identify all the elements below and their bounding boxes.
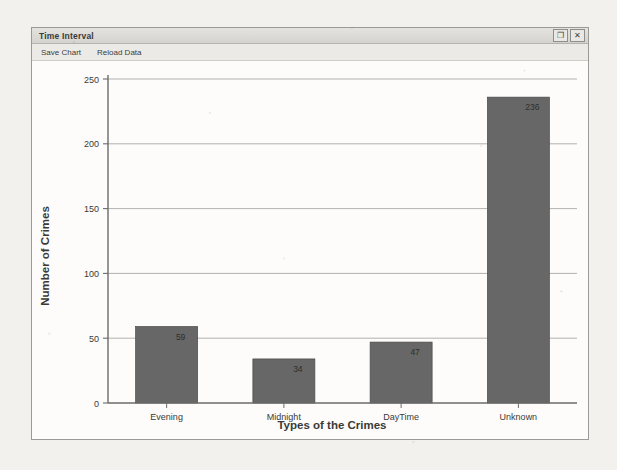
bar-chart: 050100150200250 EveningMidnightDayTimeUn… xyxy=(32,61,588,438)
menu-item-save-chart[interactable]: Save Chart xyxy=(41,48,81,57)
bar[interactable] xyxy=(253,359,315,403)
window-title: Time Interval xyxy=(39,31,551,41)
bar-value-label: 47 xyxy=(410,347,420,357)
x-tick-label: Unknown xyxy=(500,412,538,422)
bar-value-label: 34 xyxy=(293,364,303,374)
bar[interactable] xyxy=(487,97,549,403)
chart-panel: 050100150200250 EveningMidnightDayTimeUn… xyxy=(32,61,588,438)
y-tick-label: 200 xyxy=(84,139,99,149)
window-title-bar[interactable]: Time Interval ❐ ✕ xyxy=(32,28,588,44)
y-tick-label: 0 xyxy=(94,399,99,409)
y-tick-label: 100 xyxy=(84,269,99,279)
bar-value-label: 236 xyxy=(525,102,539,112)
y-tick-label: 50 xyxy=(89,334,99,344)
bar[interactable] xyxy=(136,327,198,403)
y-axis-title: Number of Crimes xyxy=(39,206,51,306)
x-tick-label: Evening xyxy=(150,412,183,422)
chart-window: Time Interval ❐ ✕ Save Chart Reload Data… xyxy=(31,27,589,440)
close-button[interactable]: ✕ xyxy=(570,29,585,42)
x-axis-title: Types of the Crimes xyxy=(277,419,386,431)
y-tick-label: 150 xyxy=(84,204,99,214)
bar[interactable] xyxy=(370,342,432,403)
bar-value-label: 59 xyxy=(176,332,186,342)
menu-item-reload-data[interactable]: Reload Data xyxy=(97,48,141,57)
x-tick-label: DayTime xyxy=(383,412,419,422)
y-tick-label: 250 xyxy=(84,75,99,85)
menu-bar: Save Chart Reload Data xyxy=(32,44,588,61)
restore-button[interactable]: ❐ xyxy=(553,29,568,42)
